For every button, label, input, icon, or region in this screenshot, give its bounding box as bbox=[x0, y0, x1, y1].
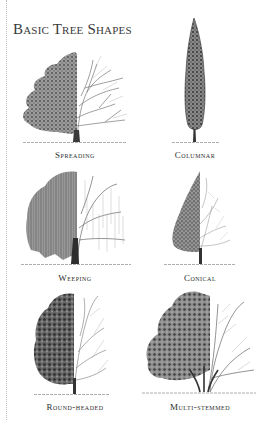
tree-multi-stemmed-illustration bbox=[138, 288, 260, 398]
tree-weeping-illustration bbox=[15, 168, 135, 268]
label-multi-stemmed: Multi-stemmed bbox=[145, 402, 255, 412]
tree-round-headed-illustration bbox=[28, 288, 114, 398]
tree-conical-illustration bbox=[160, 168, 240, 268]
label-round-headed: Round-headed bbox=[25, 402, 125, 412]
label-weeping: Weeping bbox=[40, 273, 110, 283]
tree-columnar-illustration bbox=[168, 15, 224, 145]
label-spreading: Spreading bbox=[40, 150, 110, 160]
dotted-page-edge bbox=[6, 0, 7, 420]
tree-spreading-illustration bbox=[15, 48, 135, 146]
label-conical: Conical bbox=[165, 273, 235, 283]
label-columnar: Columnar bbox=[160, 150, 230, 160]
page-title: Basic Tree Shapes bbox=[13, 21, 132, 38]
